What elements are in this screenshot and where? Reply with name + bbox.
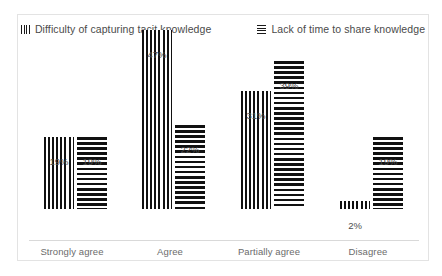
category-label-partially-agree: Partially agree [214, 246, 324, 257]
bar-value-agree-lack-of-time: 22% [170, 144, 210, 155]
category-axis-line [29, 240, 419, 241]
plot-area: 19% 19% Strongly agree 47% 22% Agree 31%… [18, 15, 428, 260]
chart-container: Difficulty of capturing tacit knowledge … [17, 14, 429, 261]
bar-value-disagree-difficulty: 2% [335, 220, 375, 231]
category-label-agree: Agree [115, 246, 225, 257]
bar-value-partially-agree-lack-of-time: 39% [269, 80, 309, 91]
bar-value-partially-agree-difficulty: 31% [236, 110, 276, 121]
bar-agree-lack-of-time[interactable] [175, 125, 205, 209]
bar-strongly-agree-difficulty[interactable] [44, 137, 74, 209]
bar-value-agree-difficulty: 47% [137, 49, 177, 60]
bar-value-disagree-lack-of-time: 19% [368, 156, 408, 167]
category-label-strongly-agree: Strongly agree [17, 246, 127, 257]
bar-partially-agree-difficulty[interactable] [241, 91, 271, 209]
category-label-disagree: Disagree [313, 246, 423, 257]
bar-strongly-agree-lack-of-time[interactable] [77, 137, 107, 209]
bar-value-strongly-agree-lack-of-time: 19% [72, 156, 112, 167]
bar-disagree-lack-of-time[interactable] [373, 137, 403, 209]
bar-disagree-difficulty[interactable] [340, 201, 370, 209]
